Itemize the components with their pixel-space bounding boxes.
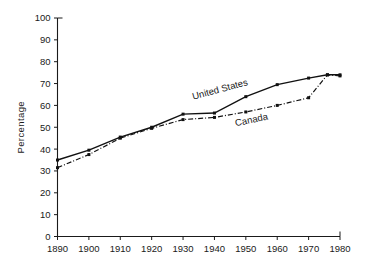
data-point-marker	[307, 96, 310, 99]
y-tick-label: 20	[40, 187, 51, 198]
data-point-marker	[339, 74, 342, 77]
series-inline-labels: United StatesCanada	[191, 76, 270, 128]
y-axis-title: Percentage	[15, 101, 26, 154]
chart-tick-marks	[54, 18, 340, 240]
data-point-marker	[182, 113, 185, 116]
data-point-marker	[119, 137, 122, 140]
y-tick-label: 30	[40, 165, 51, 176]
x-tick-label: 1960	[267, 243, 288, 254]
data-point-marker	[182, 118, 185, 121]
x-axis-tick-labels: 1890190019101920193019401950196019701980	[47, 243, 351, 254]
y-tick-label: 100	[35, 12, 51, 23]
data-point-marker	[213, 112, 216, 115]
y-axis-title-text: Percentage	[15, 101, 26, 154]
data-point-marker	[56, 159, 59, 162]
data-point-marker	[326, 73, 329, 76]
data-point-marker	[87, 149, 90, 152]
chart-axes	[58, 18, 341, 237]
x-tick-label: 1910	[110, 243, 131, 254]
y-tick-label: 80	[40, 56, 51, 67]
x-tick-label: 1920	[141, 243, 162, 254]
x-tick-label: 1930	[172, 243, 193, 254]
data-point-marker	[276, 83, 279, 86]
y-axis-tick-labels: 0102030405060708090100	[35, 12, 51, 242]
data-point-marker	[276, 104, 279, 107]
x-tick-label: 1970	[298, 243, 319, 254]
axis-spines	[58, 18, 341, 237]
y-tick-label: 60	[40, 100, 51, 111]
data-point-marker	[307, 77, 310, 80]
y-tick-label: 0	[45, 231, 50, 242]
chart-figure: 0102030405060708090100 18901900191019201…	[0, 0, 367, 266]
x-tick-label: 1940	[204, 243, 225, 254]
x-tick-label: 1900	[78, 243, 99, 254]
y-tick-label: 70	[40, 78, 51, 89]
x-tick-label: 1890	[47, 243, 68, 254]
y-tick-label: 40	[40, 144, 51, 155]
x-tick-label: 1950	[235, 243, 256, 254]
series-line-united-states	[58, 75, 341, 160]
line-chart: 0102030405060708090100 18901900191019201…	[0, 0, 367, 266]
y-tick-label: 90	[40, 34, 51, 45]
data-point-marker	[150, 127, 153, 130]
data-point-marker	[56, 166, 59, 169]
data-point-marker	[213, 116, 216, 119]
y-tick-label: 10	[40, 209, 51, 220]
x-tick-label: 1980	[329, 243, 350, 254]
data-point-marker	[244, 95, 247, 98]
chart-data-markers	[56, 73, 342, 169]
data-point-marker	[244, 110, 247, 113]
series-label-united-states: United States	[191, 76, 249, 101]
y-tick-label: 50	[40, 122, 51, 133]
data-point-marker	[87, 153, 90, 156]
